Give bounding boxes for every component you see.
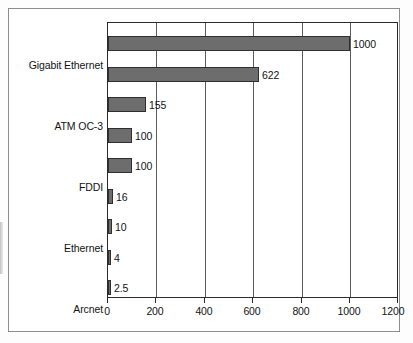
bar-value-ethernet: 10 (115, 222, 126, 233)
bar-ethernet (108, 219, 112, 234)
category-label-arcnet: Arcnet (73, 304, 103, 315)
category-label-atm-oc-3: ATM OC-3 (54, 121, 103, 132)
xtick-label-800: 800 (292, 306, 309, 317)
xtick-label-1000: 1000 (338, 306, 361, 317)
bar-atm-oc-3 (108, 97, 146, 112)
xtick-mark-1000 (349, 298, 350, 303)
bar-row-1 (108, 67, 259, 82)
xtick-mark-600 (252, 298, 253, 303)
category-label-ethernet: Ethernet (64, 243, 103, 254)
gridline-600 (253, 23, 254, 297)
category-label-fddi: FDDI (79, 182, 103, 193)
gridline-200 (156, 23, 157, 297)
bar-value-atm-oc-3: 155 (149, 100, 166, 111)
xtick-label-0: 0 (104, 306, 110, 317)
bar-fddi (108, 158, 132, 173)
xtick-mark-400 (204, 298, 205, 303)
xtick-mark-800 (301, 298, 302, 303)
gridline-800 (302, 23, 303, 297)
plot-area: 1000 622 155 100 100 16 10 4 2.5 (107, 22, 398, 298)
category-axis-labels: Gigabit Ethernet ATM OC-3 FDDI Ethernet … (8, 22, 103, 298)
xtick-mark-0 (107, 298, 108, 303)
figure-root: Gigabit Ethernet ATM OC-3 FDDI Ethernet … (0, 0, 413, 343)
bar-value-row-3: 100 (135, 131, 152, 142)
bar-row-7 (108, 250, 111, 265)
bar-value-gigabit-ethernet: 1000 (353, 39, 376, 50)
gridline-1000 (350, 23, 351, 297)
bar-row-5 (108, 189, 113, 204)
xtick-mark-1200 (397, 298, 398, 303)
gridline-400 (205, 23, 206, 297)
bar-arcnet (108, 280, 111, 295)
scan-edge-artifact (0, 222, 3, 274)
bar-gigabit-ethernet (108, 36, 350, 51)
bar-value-row-1: 622 (262, 70, 279, 81)
xtick-mark-200 (155, 298, 156, 303)
xtick-label-1200: 1200 (382, 306, 405, 317)
category-label-gigabit-ethernet: Gigabit Ethernet (29, 60, 103, 71)
bar-value-row-7: 4 (114, 253, 120, 264)
bar-row-3 (108, 128, 132, 143)
xtick-label-200: 200 (146, 306, 163, 317)
bar-value-arcnet: 2.5 (114, 283, 128, 294)
bar-value-row-5: 16 (116, 192, 127, 203)
bar-value-fddi: 100 (135, 161, 152, 172)
xtick-label-400: 400 (195, 306, 212, 317)
xtick-label-600: 600 (243, 306, 260, 317)
